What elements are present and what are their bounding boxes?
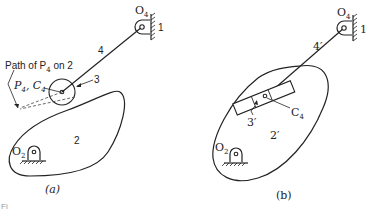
slider-3-prime-label: 3′ bbox=[247, 116, 257, 129]
link-4-label: 4 bbox=[98, 45, 104, 56]
diagram-canvas: Path of P4 on 2 P4, C4 4 3 2 O2 O4 1 (a) bbox=[0, 0, 368, 210]
body-2-prime-label: 2′ bbox=[270, 129, 280, 142]
c4-leader bbox=[267, 98, 290, 108]
path-arrowhead bbox=[14, 104, 19, 108]
c4-label-b: C4 bbox=[291, 106, 304, 121]
link-4 bbox=[62, 27, 142, 92]
roller-3-arrowhead bbox=[76, 83, 81, 87]
o4-label-b: O4 bbox=[337, 6, 351, 21]
path-label: Path of P4 on 2 bbox=[5, 60, 73, 74]
link-4-prime-label: 4′ bbox=[313, 40, 323, 53]
roller-3-label: 3 bbox=[94, 74, 100, 85]
caption-a: (a) bbox=[45, 183, 60, 196]
frame-1-label-b: 1 bbox=[360, 23, 367, 36]
figure-footer-fragment: Fi bbox=[1, 202, 8, 210]
cam-2-label: 2 bbox=[74, 135, 80, 146]
o4-label-a: O4 bbox=[135, 4, 149, 19]
figure-b: 4′ C4 3′ 2′ O2 O4 1 (b) bbox=[213, 6, 367, 202]
o2-label-b: O2 bbox=[215, 141, 229, 156]
slider-pin-c4 bbox=[263, 94, 267, 98]
figure-a: Path of P4 on 2 P4, C4 4 3 2 O2 O4 1 (a) bbox=[5, 4, 164, 196]
frame-1-label-a: 1 bbox=[158, 22, 164, 33]
p4-c4-label: P4, C4 bbox=[13, 79, 46, 94]
o2-label-a: O2 bbox=[12, 145, 26, 160]
caption-b: (b) bbox=[276, 189, 292, 202]
